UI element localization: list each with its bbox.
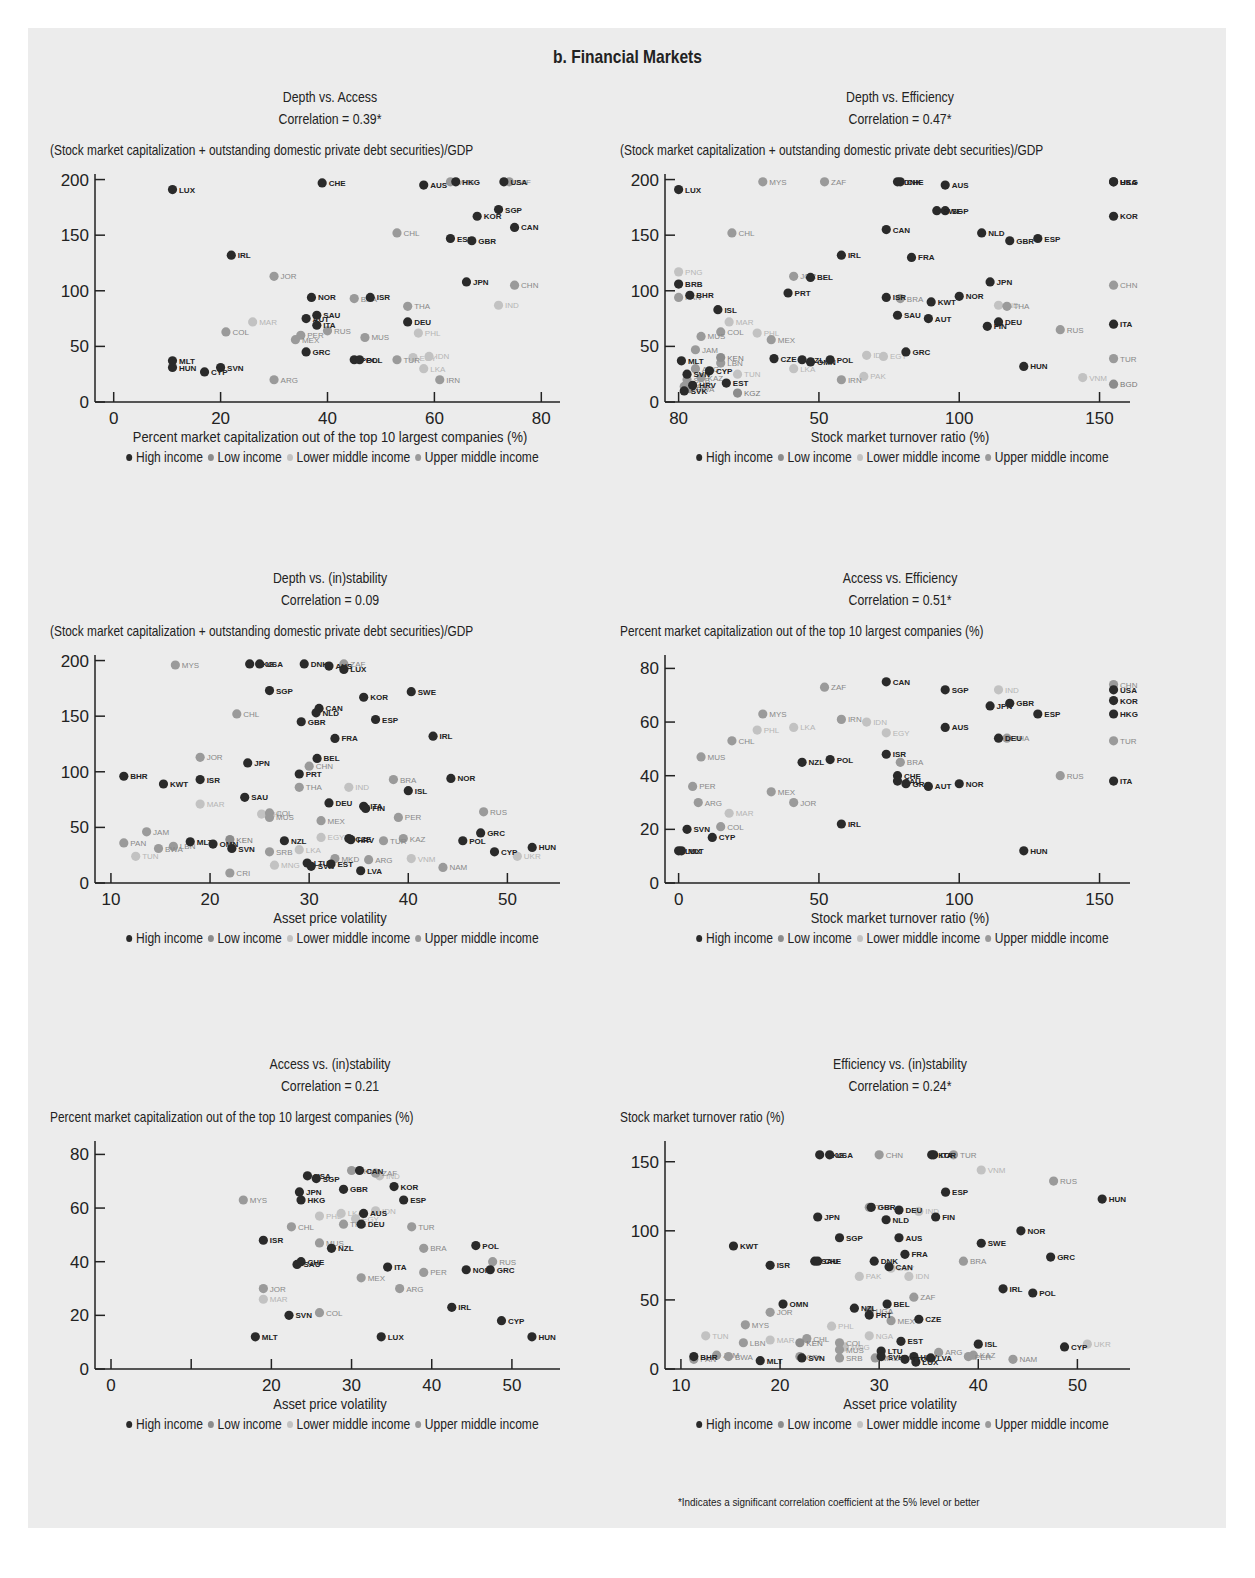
data-point-isr [766, 1261, 775, 1270]
y-tick-label: 200 [61, 652, 89, 671]
point-label: NOR [457, 774, 475, 783]
scatter-plot: 0501001502008050100150PNGINDMARPHLIDNEGY… [620, 164, 1140, 426]
data-point-cyp [1060, 1342, 1069, 1351]
data-point-tur [407, 1222, 416, 1231]
point-label: DEU [1005, 318, 1022, 327]
data-point-grc [1046, 1252, 1055, 1261]
data-point-nor [462, 1265, 471, 1274]
point-label: ISR [893, 293, 907, 302]
point-label: BWA [735, 1353, 754, 1362]
point-label: PER [405, 813, 422, 822]
chart-correlation: Correlation = 0.21 [100, 1075, 559, 1097]
data-point-sau [893, 311, 902, 320]
point-label: KOR [401, 1183, 419, 1192]
legend-dot-icon [857, 1421, 863, 1428]
point-label: RUS [1067, 326, 1084, 335]
data-point-chn [510, 281, 519, 290]
data-point-mys [741, 1320, 750, 1329]
data-point-tha [295, 783, 304, 792]
point-label: MAR [777, 1336, 795, 1345]
legend-dot-icon [208, 454, 214, 461]
data-point-sau [893, 776, 902, 785]
legend-dot-icon [778, 935, 784, 942]
data-point-ita [929, 1150, 938, 1159]
data-point-tur [1109, 736, 1118, 745]
x-axis-label: Percent market capitalization out of the… [89, 428, 571, 445]
point-label: NLD [988, 229, 1005, 238]
point-label: DEU [335, 799, 352, 808]
point-label: TTO [911, 1355, 927, 1364]
data-point-irl [837, 251, 846, 260]
legend-dot-icon [415, 1421, 421, 1428]
chart-title: Depth vs. Efficiency [670, 86, 1129, 108]
data-point-nzl [850, 1304, 859, 1313]
legend-label: High income [706, 449, 773, 465]
point-label: DEU [905, 1206, 922, 1215]
x-tick-label: 20 [771, 1376, 790, 1395]
data-point-aus [359, 1209, 368, 1218]
data-point-rus [479, 807, 488, 816]
data-point-hun [527, 1332, 536, 1341]
scatter-plot: 050100150200020406080INDMARPHLEGYIDNLKAM… [50, 164, 570, 426]
point-label: KGZ [744, 389, 761, 398]
point-label: ITA [323, 321, 336, 330]
data-point-tun [733, 370, 742, 379]
data-point-chn [347, 1166, 356, 1175]
point-label: GRC [487, 829, 505, 838]
data-point-nor [955, 292, 964, 301]
point-label: SAU [323, 311, 340, 320]
point-label: SGP [276, 687, 294, 696]
chart-correlation: Correlation = 0.51* [670, 589, 1129, 611]
y-axis-label: (Stock market capitalization + outstandi… [50, 142, 509, 164]
point-label: BRA [907, 758, 924, 767]
data-point-sau [312, 311, 321, 320]
y-axis-label: Percent market capitalization out of the… [620, 623, 1079, 645]
data-point-esp [1033, 709, 1042, 718]
data-point-dnk [870, 1257, 879, 1266]
point-label: KOR [1120, 212, 1138, 221]
point-label: NOR [966, 780, 984, 789]
data-point-mus [696, 332, 705, 341]
x-tick-label: 150 [1085, 890, 1113, 909]
data-point-svn [227, 844, 236, 853]
point-label: CHN [886, 1151, 904, 1160]
point-label: GBR [1016, 237, 1034, 246]
data-point-mex [291, 335, 300, 344]
point-label: CYP [716, 367, 733, 376]
point-label: TUR [418, 1223, 435, 1232]
data-point-grc [486, 1265, 495, 1274]
x-tick-label: 0 [674, 890, 683, 909]
data-point-svk [877, 1352, 886, 1361]
point-label: ISL [415, 787, 428, 796]
point-label: SAU [904, 311, 921, 320]
data-point-zaf [820, 177, 829, 186]
data-point-phl [315, 1212, 324, 1221]
point-label: GBR [350, 1185, 368, 1194]
data-point-irl [428, 732, 437, 741]
point-label: IRL [848, 251, 861, 260]
point-label: IRL [440, 732, 453, 741]
y-tick-label: 20 [640, 820, 659, 839]
data-point-mex [316, 816, 325, 825]
point-label: ISR [377, 293, 391, 302]
point-label: GBR [478, 237, 496, 246]
data-point-cze [914, 1315, 923, 1324]
data-point-nor [307, 293, 316, 302]
x-tick-label: 20 [201, 890, 220, 909]
legend-dot-icon [697, 1421, 703, 1428]
y-axis-label: (Stock market capitalization + outstandi… [620, 142, 1079, 164]
point-label: MYS [752, 1321, 769, 1330]
data-point-ita [312, 321, 321, 330]
legend-label: Upper middle income [425, 449, 539, 465]
data-point-grc [302, 347, 311, 356]
legend-dot-icon [415, 454, 421, 461]
point-label: TUN [712, 1332, 729, 1341]
point-label: ISR [207, 776, 221, 785]
data-point-arg [364, 855, 373, 864]
data-point-deu [994, 734, 1003, 743]
data-point-ind [994, 301, 1003, 310]
point-label: HKG [462, 178, 480, 187]
data-point-mng [270, 861, 279, 870]
point-label: AUS [952, 723, 970, 732]
point-label: SRB [846, 1354, 862, 1363]
